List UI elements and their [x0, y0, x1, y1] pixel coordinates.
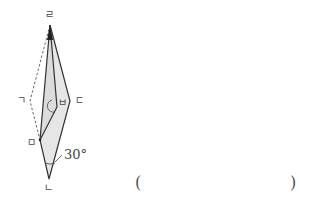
vertex-label-left: ㄱ: [17, 96, 26, 106]
angle-leader: [55, 155, 62, 162]
vertex-label-top: ㄹ: [45, 10, 54, 20]
angle-label: 30°: [64, 148, 87, 161]
vertex-label-bottom: ㄴ: [44, 183, 53, 193]
vertex-label-right: ㄷ: [75, 96, 84, 106]
vertex-label-fold: ㅁ: [27, 138, 36, 148]
point-m: [39, 139, 42, 142]
answer-blank[interactable]: [150, 172, 286, 194]
vertex-label-inner: ㅂ: [58, 98, 67, 108]
answer-open-paren: (: [135, 175, 141, 191]
answer-close-paren: ): [290, 175, 296, 191]
